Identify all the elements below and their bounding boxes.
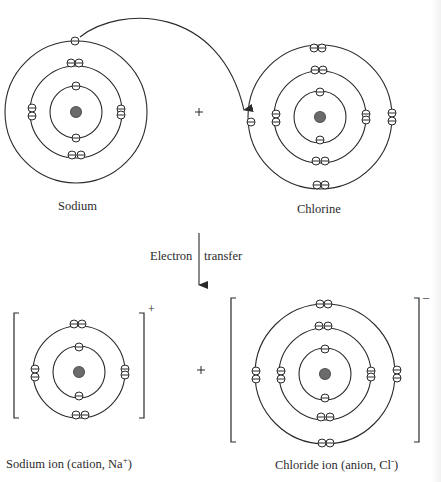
sodium-ion-charge: +: [148, 302, 155, 317]
plus-sign-bottom: [197, 366, 205, 374]
sodium-nucleus: [71, 107, 82, 118]
electron-transfer-curve-arrow: [80, 18, 244, 110]
ionic-bond-diagram: Sodium Chlorine Electron transfer + – So…: [0, 0, 441, 482]
electron-label: Electron: [150, 249, 192, 264]
transfer-label: transfer: [204, 249, 242, 264]
chloride-ion-charge: –: [423, 290, 429, 305]
chlorine-atom: [248, 45, 392, 189]
sodium-electrons: [28, 37, 125, 159]
chlorine-label: Chlorine: [297, 202, 341, 217]
diagram-canvas: [0, 0, 441, 482]
chloride-ion-label: Chloride ion (anion, Cl-): [275, 456, 398, 473]
chlorine-nucleus: [315, 112, 326, 123]
sodium-label: Sodium: [58, 199, 97, 214]
sodium-ion: [33, 326, 125, 418]
plus-sign-top: [195, 108, 203, 116]
sodium-ion-label: Sodium ion (cation, Na+): [6, 455, 132, 472]
